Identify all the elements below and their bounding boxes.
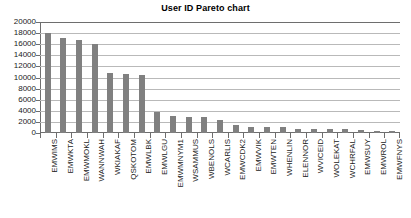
bar <box>45 33 51 133</box>
y-axis-labels: 0200040006000800010000120001400016000180… <box>0 22 36 133</box>
y-axis-tick-label: 8000 <box>0 85 36 93</box>
x-axis-category-label: WCARLIS <box>224 139 232 175</box>
bar <box>60 38 66 133</box>
x-axis-category-label: EMWMNYM1 <box>177 139 185 187</box>
y-axis-tick-label: 14000 <box>0 51 36 59</box>
x-axis-tick-mark <box>87 133 88 138</box>
y-axis-tick-label: 12000 <box>0 62 36 70</box>
bar <box>170 116 176 133</box>
x-axis-category-label: EMWVIK <box>255 139 263 171</box>
x-axis-category-label: QSKOTOM <box>130 139 138 180</box>
bar <box>92 44 98 133</box>
y-axis-tick-label: 6000 <box>0 96 36 104</box>
x-axis-category-label: EMWSUY <box>364 139 372 175</box>
x-axis-category-label: EMWLBK <box>145 139 153 174</box>
x-axis-tick-mark <box>181 133 182 138</box>
x-axis-tick-mark <box>322 133 323 138</box>
y-axis-tick-label: 10000 <box>0 74 36 82</box>
bar <box>123 74 129 133</box>
x-axis-tick-mark <box>384 133 385 138</box>
x-axis-tick-mark <box>290 133 291 138</box>
x-axis-tick-mark <box>40 133 41 138</box>
x-axis-category-label: WHENLIN <box>286 139 294 176</box>
x-axis-tick-mark <box>103 133 104 138</box>
x-axis-tick-mark <box>275 133 276 138</box>
x-axis-tick-mark <box>369 133 370 138</box>
x-axis-category-label: EMWIMS <box>51 139 59 173</box>
x-axis-tick-mark <box>134 133 135 138</box>
x-axis-tick-mark <box>228 133 229 138</box>
x-axis-tick-mark <box>243 133 244 138</box>
x-axis-category-label: WANNWAH <box>98 139 106 182</box>
y-axis-tick-label: 16000 <box>0 40 36 48</box>
x-axis-category-label: EMWFNYS <box>396 139 404 180</box>
x-axis-tick-mark <box>337 133 338 138</box>
x-axis-category-label: WVICEID <box>317 139 325 173</box>
x-axis-category-label: EMWCDK2 <box>239 139 247 180</box>
x-axis-category-label: WSAMMUS <box>192 139 200 182</box>
x-axis-category-label: EMWTEN <box>270 139 278 175</box>
bar <box>154 112 160 133</box>
bar <box>139 75 145 133</box>
x-axis-labels: EMWIMSEMWKTAEMWMOKLWANNWAHWKIAKAFQSKOTOM… <box>40 139 400 218</box>
x-axis-category-label: WKIAKAF <box>114 139 122 175</box>
bar <box>201 117 207 133</box>
bar <box>186 117 192 133</box>
x-axis-tick-mark <box>353 133 354 138</box>
x-axis-category-label: EMWLGU <box>161 139 169 175</box>
x-axis-category-label: WBENOLS <box>208 139 216 179</box>
y-axis-tick-label: 20000 <box>0 18 36 26</box>
x-axis-category-label: EMWROL <box>380 139 388 175</box>
x-axis-category-label: WCHRFAL <box>349 139 357 178</box>
x-axis-tick-mark <box>259 133 260 138</box>
y-axis-tick-label: 4000 <box>0 107 36 115</box>
bar <box>76 40 82 133</box>
x-axis-category-label: EMWMOKL <box>83 139 91 181</box>
x-axis-tick-mark <box>399 133 400 138</box>
chart-title: User ID Pareto chart <box>0 3 411 13</box>
x-axis-category-label: WOLEKAT <box>333 139 341 178</box>
plot-area <box>40 22 400 133</box>
x-axis-tick-mark <box>56 133 57 138</box>
bar-series <box>40 22 400 133</box>
x-axis-tick-mark <box>197 133 198 138</box>
x-axis-category-label: ELENNOR <box>302 139 310 178</box>
x-axis-tick-mark <box>150 133 151 138</box>
x-axis-tick-mark <box>118 133 119 138</box>
y-axis-tick-label: 18000 <box>0 29 36 37</box>
y-axis-tick-label: 2000 <box>0 118 36 126</box>
bar <box>233 125 239 133</box>
x-axis-tick-mark <box>306 133 307 138</box>
bar <box>107 73 113 133</box>
x-axis-tick-mark <box>71 133 72 138</box>
x-axis-category-label: EMWKTA <box>67 139 75 174</box>
pareto-chart: User ID Pareto chart 0200040006000800010… <box>0 0 411 218</box>
x-axis-tick-mark <box>165 133 166 138</box>
y-axis-tick-label: 0 <box>0 129 36 137</box>
bar <box>217 120 223 133</box>
x-axis-tick-mark <box>212 133 213 138</box>
